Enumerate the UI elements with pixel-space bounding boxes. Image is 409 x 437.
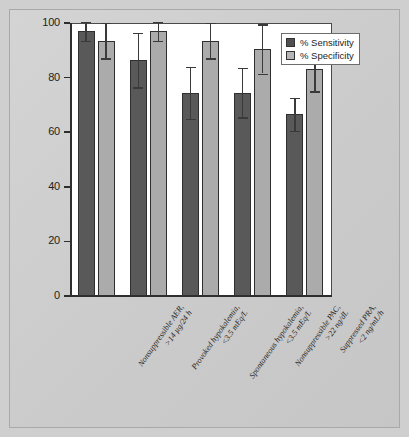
error-cap-bottom-4-1 (238, 117, 248, 118)
y-tick-0 (64, 295, 70, 297)
y-tick-label-80: 80 (34, 71, 60, 83)
legend-item-sensitivity: % Sensitivity (286, 37, 354, 48)
error-cap-top-1-2 (101, 23, 111, 24)
bar-specificity-group-5 (306, 69, 323, 296)
error-cap-bottom-2-1 (133, 87, 143, 88)
error-cap-top-3-1 (186, 67, 196, 68)
bar-specificity-group-3 (202, 41, 219, 296)
bar-sensitivity-group-2 (130, 60, 147, 296)
error-cap-bottom-1-2 (101, 58, 111, 59)
error-cap-top-5-1 (290, 98, 300, 99)
legend-swatch-sensitivity (286, 38, 295, 47)
error-cap-bottom-2-2 (153, 41, 163, 42)
error-bar-specificity-group-1 (105, 23, 106, 58)
y-tick-100 (64, 22, 70, 24)
error-bar-specificity-group-3 (210, 23, 211, 58)
y-tick-label-100: 100 (34, 16, 60, 28)
error-bar-specificity-group-2 (158, 22, 159, 41)
error-cap-bottom-5-2 (310, 91, 320, 92)
y-tick-label-40: 40 (34, 180, 60, 192)
error-bar-specificity-group-4 (262, 24, 263, 73)
error-bar-sensitivity-group-3 (190, 67, 191, 119)
error-cap-bottom-5-1 (290, 131, 300, 132)
y-tick-label-0: 0 (34, 289, 60, 301)
legend-swatch-specificity (286, 51, 295, 60)
error-bar-sensitivity-group-1 (85, 22, 86, 41)
bar-sensitivity-group-3 (182, 93, 199, 296)
legend-item-specificity: % Specificity (286, 50, 354, 61)
chart-legend: % Sensitivity % Specificity (281, 33, 360, 65)
error-cap-bottom-3-1 (186, 119, 196, 120)
error-cap-bottom-3-2 (206, 58, 216, 59)
error-cap-bottom-4-2 (258, 74, 268, 75)
bar-sensitivity-group-1 (78, 31, 95, 296)
error-cap-top-1-1 (81, 22, 91, 23)
y-tick-label-20: 20 (34, 234, 60, 246)
error-cap-top-4-1 (238, 68, 248, 69)
bar-sensitivity-group-4 (234, 93, 251, 296)
error-bar-sensitivity-group-4 (242, 68, 243, 117)
legend-label-specificity: % Specificity (300, 50, 354, 61)
y-tick-60 (64, 131, 70, 133)
error-bar-sensitivity-group-5 (294, 98, 295, 131)
y-tick-80 (64, 77, 70, 79)
y-tick-label-60: 60 (34, 125, 60, 137)
y-tick-20 (64, 241, 70, 243)
figure-container: 020406080100 % Sensitivity % Specificity… (0, 0, 409, 437)
error-bar-sensitivity-group-2 (138, 33, 139, 88)
y-tick-40 (64, 186, 70, 188)
bar-specificity-group-4 (254, 49, 271, 296)
error-cap-top-4-2 (258, 24, 268, 25)
bar-specificity-group-2 (150, 31, 167, 296)
error-cap-top-2-2 (153, 22, 163, 23)
bar-specificity-group-1 (98, 41, 115, 296)
error-cap-top-3-2 (206, 23, 216, 24)
error-cap-top-2-1 (133, 33, 143, 34)
legend-label-sensitivity: % Sensitivity (300, 37, 354, 48)
error-cap-bottom-1-1 (81, 41, 91, 42)
bar-sensitivity-group-5 (286, 114, 303, 296)
